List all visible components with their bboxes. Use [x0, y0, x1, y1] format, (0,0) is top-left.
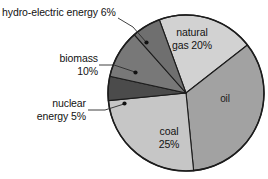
callout-nuclear-line1: nuclear — [6, 97, 86, 110]
callout-hydro-electric-text: hydro-electric energy 6% — [2, 6, 116, 19]
callout-biomass: biomass 10% — [20, 52, 98, 78]
label-coal: coal 25% — [145, 125, 193, 151]
label-oil-line1: oil — [208, 92, 242, 105]
callout-nuclear-line2: energy 5% — [6, 110, 86, 123]
pie-chart-screenshot: hydro-electric energy 6% biomass 10% nuc… — [0, 0, 268, 179]
label-natural-gas: natural gas 20% — [158, 26, 226, 52]
label-oil: oil — [208, 92, 242, 105]
label-coal-line1: coal — [145, 125, 193, 138]
energy-sources-pie-chart — [0, 0, 268, 179]
label-coal-line2: 25% — [145, 138, 193, 151]
callout-nuclear-energy: nuclear energy 5% — [6, 97, 86, 123]
label-natural-gas-line1: natural — [158, 26, 226, 39]
callout-hydro-electric-energy: hydro-electric energy 6% — [2, 6, 116, 19]
callout-biomass-line2: 10% — [20, 65, 98, 78]
callout-biomass-line1: biomass — [20, 52, 98, 65]
label-natural-gas-line2: gas 20% — [158, 39, 226, 52]
